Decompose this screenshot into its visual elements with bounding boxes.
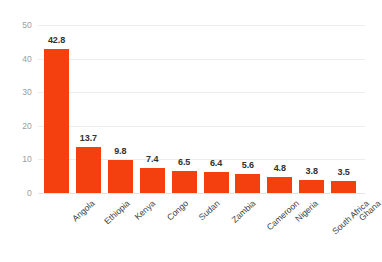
x-axis-tick-label: Congo: [166, 199, 190, 222]
x-axis-tick-label: Kenya: [133, 199, 157, 222]
x-axis-tick-label: Sudan: [197, 199, 221, 222]
x-axis-tick-label: Angola: [70, 199, 95, 223]
x-axis-tick-label: Ethiopia: [103, 199, 132, 226]
x-axis-tick-label: Zambia: [230, 199, 257, 224]
